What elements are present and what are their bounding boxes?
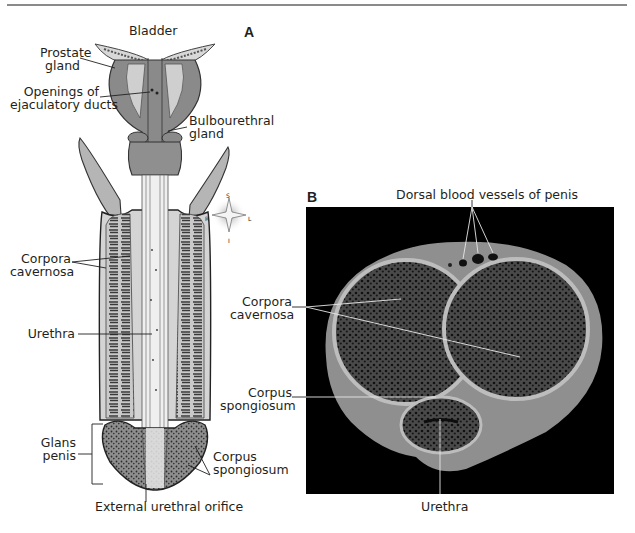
label-urethra-a: Urethra — [10, 327, 75, 341]
cross-section-graphic — [306, 207, 614, 494]
label-corpora-cavernosa-2: cavernosa — [10, 265, 71, 279]
label-corpus-spongiosum-b-2: spongiosum — [220, 399, 292, 413]
label-external-urethral-orifice: External urethral orifice — [95, 500, 243, 514]
label-prostate-2: gland — [40, 59, 80, 73]
compass-r: R — [205, 212, 209, 226]
panel-a-letter: A — [244, 24, 254, 40]
cross-section-photo — [306, 207, 614, 494]
label-bladder: Bladder — [129, 24, 177, 38]
panel-b-letter: B — [307, 189, 317, 205]
compass-i: I — [228, 234, 230, 248]
label-openings-2: ejaculatory ducts — [10, 98, 99, 112]
label-corpus-spongiosum-a-2: spongiosum — [213, 463, 289, 477]
label-urethra-b: Urethra — [421, 500, 468, 514]
label-corpora-cavernosa-b-2: cavernosa — [230, 308, 292, 322]
compass-s: S — [226, 189, 230, 203]
label-bulbourethral-2: gland — [189, 127, 224, 141]
label-dorsal-blood-vessels: Dorsal blood vessels of penis — [396, 188, 578, 202]
label-glans-2: penis — [30, 449, 76, 463]
compass-l: L — [248, 212, 251, 226]
